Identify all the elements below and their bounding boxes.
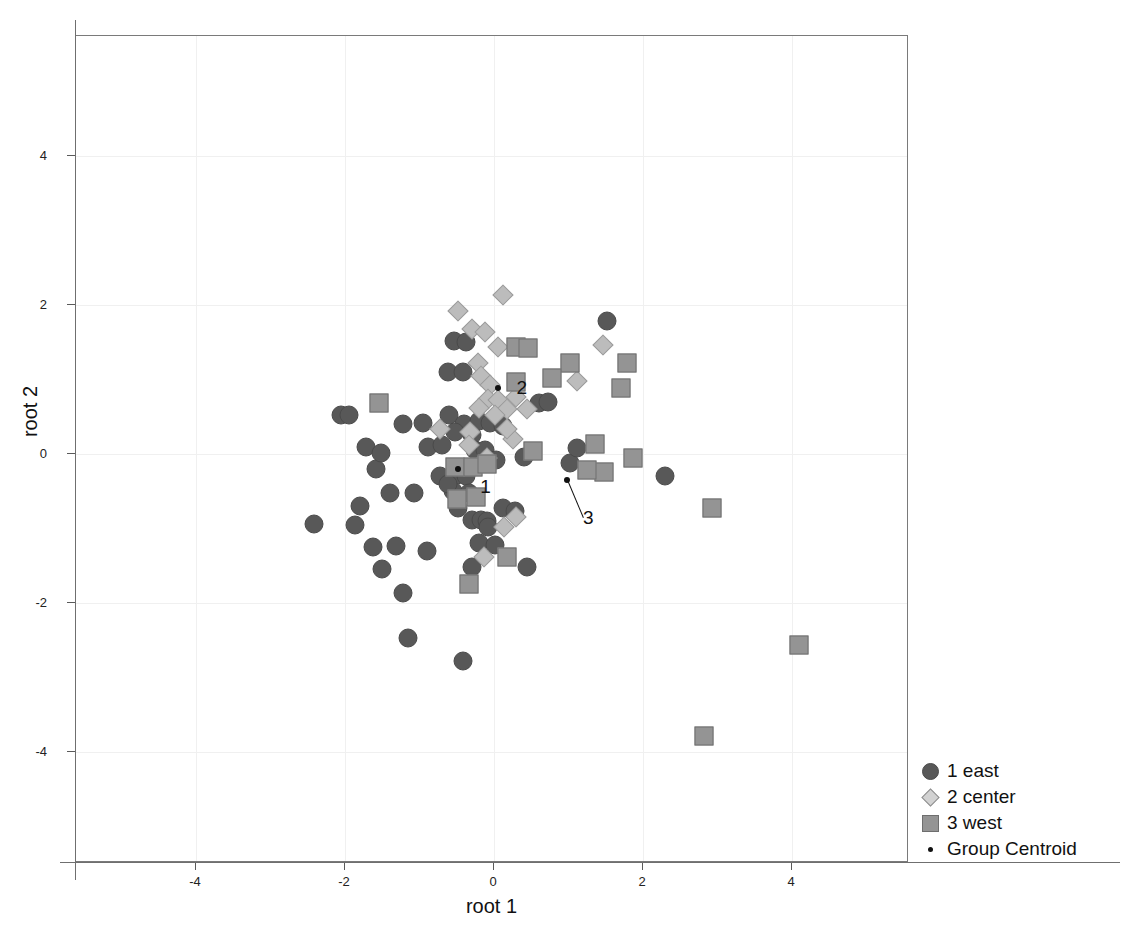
y-axis-tick (67, 155, 75, 156)
data-point-circle (350, 497, 369, 516)
data-point-square (617, 354, 636, 373)
chart-canvas: 123 -4-2024-4-2024 root 1 root 2 1 east2… (0, 0, 1124, 946)
x-axis-line (60, 862, 1120, 863)
plot-frame: 123 (75, 35, 908, 862)
legend-item-label: 2 center (947, 786, 1016, 808)
gridline-vertical (643, 36, 644, 861)
legend-item-label: 1 east (947, 760, 999, 782)
plot-area: 123 (76, 36, 907, 861)
data-point-square (695, 726, 714, 745)
data-point-circle (386, 537, 405, 556)
data-point-circle (538, 392, 557, 411)
data-point-circle (417, 541, 436, 560)
data-point-square (578, 461, 597, 480)
data-point-diamond (592, 335, 613, 356)
gridline-horizontal (76, 603, 907, 604)
data-point-square (790, 635, 809, 654)
centroid-label-2: 2 (516, 377, 527, 399)
y-axis-tick (67, 602, 75, 603)
data-point-square (543, 369, 562, 388)
data-point-square (477, 455, 496, 474)
data-point-square (447, 489, 466, 508)
x-axis-tick-label: 2 (638, 874, 645, 889)
gridline-horizontal (76, 752, 907, 753)
x-axis-tick-label: -4 (189, 874, 201, 889)
legend-square-icon (918, 815, 942, 832)
data-point-square (702, 498, 721, 517)
x-axis-tick (493, 862, 494, 870)
data-point-circle (346, 515, 365, 534)
gridline-horizontal (76, 305, 907, 306)
data-point-square (518, 339, 537, 358)
x-axis-tick (791, 862, 792, 870)
data-point-square (585, 434, 604, 453)
data-point-circle (598, 312, 617, 331)
y-axis-line (75, 20, 76, 880)
data-point-circle (453, 652, 472, 671)
legend-diamond-icon (918, 791, 942, 804)
data-point-circle (404, 483, 423, 502)
x-axis-tick (195, 862, 196, 870)
y-axis-tick-label: -4 (35, 744, 47, 759)
x-axis-tick-label: -2 (338, 874, 350, 889)
data-point-circle (363, 538, 382, 557)
data-point-square (623, 449, 642, 468)
data-point-square (523, 442, 542, 461)
x-axis-title: root 1 (75, 895, 908, 918)
data-point-circle (398, 629, 417, 648)
data-point-square (611, 379, 630, 398)
data-point-circle (517, 558, 536, 577)
gridline-vertical (196, 36, 197, 861)
x-axis-tick (642, 862, 643, 870)
data-point-circle (656, 467, 675, 486)
centroid-label-3: 3 (583, 507, 594, 529)
legend-item-square[interactable]: 3 west (918, 810, 1118, 836)
x-axis-tick-label: 4 (787, 874, 794, 889)
data-point-square (560, 354, 579, 373)
data-point-diamond (448, 300, 469, 321)
data-point-circle (367, 459, 386, 478)
gridline-vertical (345, 36, 346, 861)
data-point-diamond (567, 370, 588, 391)
centroid-label-1: 1 (480, 476, 491, 498)
legend: 1 east2 center3 westGroup Centroid (918, 758, 1118, 862)
data-point-square (369, 394, 388, 413)
centroid-leader-line (567, 480, 584, 518)
data-point-circle (394, 584, 413, 603)
group-centroid-marker (495, 385, 501, 391)
group-centroid-marker (455, 466, 461, 472)
data-point-circle (371, 443, 390, 462)
data-point-circle (380, 483, 399, 502)
data-point-circle (394, 415, 413, 434)
data-point-square (459, 574, 478, 593)
legend-circle-icon (918, 763, 942, 780)
legend-item-circle[interactable]: 1 east (918, 758, 1118, 784)
legend-item-label: Group Centroid (947, 838, 1077, 860)
legend-dot-icon (918, 847, 942, 852)
gridline-horizontal (76, 156, 907, 157)
data-point-diamond (492, 284, 513, 305)
legend-item-diamond[interactable]: 2 center (918, 784, 1118, 810)
y-axis-tick-label: -2 (35, 595, 47, 610)
y-axis-tick (67, 304, 75, 305)
legend-item-dot[interactable]: Group Centroid (918, 836, 1118, 862)
data-point-circle (373, 560, 392, 579)
y-axis-title: root 2 (19, 352, 42, 472)
data-point-circle (339, 406, 358, 425)
gridline-vertical (792, 36, 793, 861)
y-axis-tick (67, 751, 75, 752)
data-point-square (595, 462, 614, 481)
y-axis-tick-label: 2 (40, 297, 47, 312)
x-axis-tick (344, 862, 345, 870)
x-axis-tick-label: 0 (489, 874, 496, 889)
legend-item-label: 3 west (947, 812, 1002, 834)
data-point-square (498, 547, 517, 566)
data-point-circle (304, 515, 323, 534)
y-axis-tick-label: 4 (40, 148, 47, 163)
y-axis-tick (67, 453, 75, 454)
